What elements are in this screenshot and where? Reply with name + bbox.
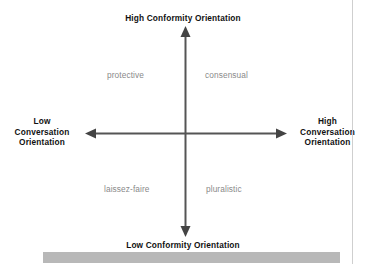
axis-label-low-conformity: Low Conformity Orientation — [0, 240, 366, 251]
axis-label-high-conformity: High Conformity Orientation — [0, 13, 366, 24]
arrow-up-icon — [181, 26, 191, 37]
axis-label-low-conversation: Low Conversation Orientation — [0, 116, 84, 148]
axis-label-low-conversation-line-2: Conversation — [0, 127, 84, 138]
bottom-gray-bar — [43, 252, 340, 263]
axis-label-low-conversation-line-1: Low — [0, 116, 84, 127]
quadrant-label-consensual: consensual — [205, 70, 248, 80]
arrow-left-icon — [85, 129, 96, 139]
axis-label-high-conversation-line-3: Orientation — [289, 137, 366, 148]
family-communication-patterns-quadrant-figure: High Conformity Orientation Low Conformi… — [0, 0, 366, 264]
quadrant-label-protective: protective — [107, 70, 144, 80]
axis-label-high-conversation-line-1: High — [289, 116, 366, 127]
quadrant-label-laissez-faire: laissez-faire — [104, 184, 150, 194]
axis-label-high-conversation-line-2: Conversation — [289, 127, 366, 138]
axis-label-low-conversation-line-3: Orientation — [0, 137, 84, 148]
axis-label-high-conversation: High Conversation Orientation — [289, 116, 366, 148]
arrow-down-icon — [181, 226, 191, 237]
arrow-right-icon — [276, 129, 287, 139]
quadrant-label-pluralistic: pluralistic — [206, 184, 242, 194]
right-vertical-rule — [352, 0, 353, 264]
